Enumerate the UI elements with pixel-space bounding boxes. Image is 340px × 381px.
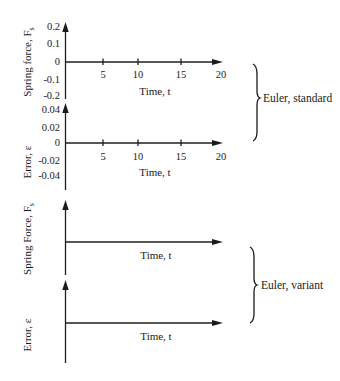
x-tick-label: 15 (176, 151, 187, 162)
y-tick-label: -0.04 (38, 170, 61, 181)
y-tick-label: 0 (55, 137, 60, 148)
group-variant: Euler, variant (250, 247, 324, 323)
y-axis-arrow-icon (62, 280, 68, 290)
y-tick-label: -0.2 (43, 90, 60, 101)
x-tick-label: 10 (133, 151, 144, 162)
y-axis-arrow-icon (62, 200, 68, 210)
x-tick-label: 15 (176, 69, 187, 80)
x-axis-arrow-icon (212, 59, 223, 65)
y-axis-arrow-icon (62, 103, 68, 113)
x-axis-title: Time, t (139, 85, 170, 97)
x-tick-label: 5 (100, 69, 105, 80)
y-tick-label: 0.1 (47, 38, 60, 49)
x-axis-arrow-icon (212, 239, 223, 245)
y-tick-label: 0.02 (42, 122, 60, 133)
x-axis-arrow-icon (212, 140, 223, 146)
x-tick-label: 10 (133, 69, 144, 80)
group-label: Euler, variant (261, 279, 324, 292)
brace-icon (253, 64, 260, 141)
brace-icon (250, 247, 257, 323)
panel-standard-error: 5 10 15 20 0.04 0.02 0 -0.02 -0.04 Time,… (21, 103, 226, 190)
y-tick-label: -0.02 (38, 155, 60, 166)
figure-canvas: 5 10 15 20 0.2 0.1 0 -0.1 -0.2 Time, t S… (0, 0, 340, 381)
y-axis-title: Error, ε (21, 145, 33, 178)
panel-variant-error: Time, t Error, ε (21, 280, 223, 363)
y-tick-label: -0.1 (43, 74, 60, 85)
y-axis-title: Spring force, Fs (21, 27, 36, 96)
x-tick-label: 20 (216, 151, 227, 162)
y-axis-title: Error, ε (21, 318, 33, 351)
y-tick-label: 0.2 (47, 21, 60, 32)
panel-variant-spring-force: Time, t Spring Force, Fs (21, 200, 223, 275)
panel-standard-spring-force: 5 10 15 20 0.2 0.1 0 -0.1 -0.2 Time, t S… (21, 21, 226, 101)
y-axis-title: Spring Force, Fs (21, 203, 36, 275)
y-tick-label: 0.04 (42, 104, 61, 115)
x-tick-label: 5 (100, 151, 105, 162)
x-axis-title: Time, t (139, 166, 170, 178)
x-axis-title: Time, t (140, 249, 171, 261)
x-axis-arrow-icon (212, 320, 223, 326)
x-axis-title: Time, t (140, 330, 171, 342)
y-tick-label: 0 (55, 56, 60, 67)
group-label: Euler, standard (263, 92, 332, 105)
x-tick-label: 20 (216, 69, 227, 80)
y-axis-arrow-icon (62, 22, 68, 32)
group-standard: Euler, standard (253, 64, 332, 141)
